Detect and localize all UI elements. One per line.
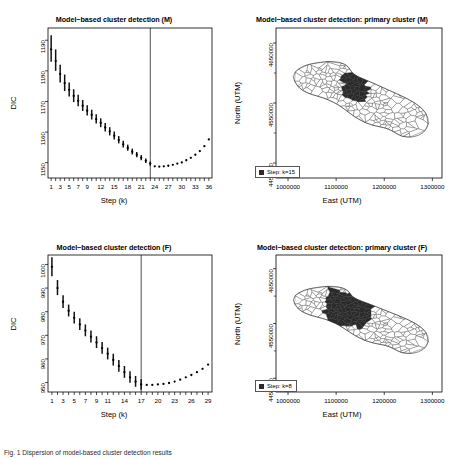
- x-tick-label: 14: [121, 397, 128, 404]
- x-tick-label: 18: [124, 183, 131, 190]
- data-point: [118, 139, 120, 141]
- panel-title-map-male: Model−based cluster detection: primary c…: [228, 15, 456, 24]
- data-point: [207, 363, 209, 365]
- x-tick-label: 1200000: [372, 183, 396, 190]
- x-tick-label: 24: [151, 183, 158, 190]
- data-point: [95, 118, 97, 120]
- data-point: [95, 341, 97, 343]
- y-axis-label: North (UTM): [233, 302, 242, 344]
- data-point: [154, 165, 156, 167]
- data-point: [194, 154, 196, 156]
- y-tick-label: 1150: [39, 163, 46, 176]
- data-point: [158, 166, 160, 168]
- x-tick-label: 1: [49, 183, 52, 190]
- y-tick-label: 990: [39, 288, 46, 298]
- legend-map-male: Step: k=15: [255, 166, 300, 178]
- data-point: [109, 130, 111, 132]
- data-point: [127, 147, 129, 149]
- y-tick-label: 1170: [39, 101, 46, 114]
- x-tick-label: 23: [171, 397, 178, 404]
- x-tick-label: 33: [192, 183, 199, 190]
- map-male: [228, 0, 456, 229]
- x-tick-label: 1300000: [420, 183, 444, 190]
- map-female: [228, 229, 456, 439]
- y-tick-label: 1180: [39, 71, 46, 84]
- panel-map-female: Model−based cluster detection: primary c…: [228, 229, 456, 439]
- data-point: [79, 323, 81, 325]
- x-axis-label: Step (k): [0, 196, 228, 205]
- data-point: [190, 157, 192, 159]
- data-point: [196, 371, 198, 373]
- data-point: [118, 365, 120, 367]
- x-tick-label: 1100000: [324, 183, 348, 190]
- x-tick-label: 1100000: [324, 397, 348, 404]
- data-point: [151, 384, 153, 386]
- data-point: [129, 376, 131, 378]
- data-point: [162, 383, 164, 385]
- data-point: [55, 60, 57, 62]
- data-point: [101, 347, 103, 349]
- x-tick-label: 20: [154, 397, 161, 404]
- panel-dic-female: Model−based cluster detection (F) 135791…: [0, 229, 228, 439]
- cluster-municipality: [350, 308, 354, 312]
- x-tick-label: 15: [111, 183, 118, 190]
- data-point: [145, 160, 147, 162]
- x-tick-label: 21: [138, 183, 145, 190]
- chart-dic-male: [0, 0, 228, 229]
- y-axis-label: DIC: [9, 317, 18, 330]
- data-point: [167, 165, 169, 167]
- y-tick-label: 980: [39, 312, 46, 322]
- data-point: [185, 159, 187, 161]
- municipality-layer: [293, 286, 428, 353]
- y-tick-label: 4550000: [267, 103, 274, 127]
- data-point: [51, 266, 53, 268]
- data-point: [86, 110, 88, 112]
- data-point: [136, 154, 138, 156]
- data-point: [199, 150, 201, 152]
- data-point: [149, 162, 151, 164]
- cluster-municipality: [350, 86, 354, 91]
- panel-title-dic-female: Model−based cluster detection (F): [0, 243, 228, 252]
- data-point: [91, 114, 93, 116]
- figure-container: Model−based cluster detection (M) 135791…: [0, 0, 456, 458]
- x-tick-label: 36: [205, 183, 212, 190]
- data-point: [62, 301, 64, 303]
- x-tick-label: 1000000: [276, 397, 300, 404]
- x-tick-label: 9: [95, 397, 98, 404]
- x-tick-label: 1300000: [420, 397, 444, 404]
- data-point: [64, 82, 66, 84]
- data-point: [123, 371, 125, 373]
- cluster-municipality: [357, 320, 366, 322]
- data-point: [140, 157, 142, 159]
- data-point: [146, 384, 148, 386]
- x-tick-label: 29: [205, 397, 212, 404]
- data-point: [73, 317, 75, 319]
- legend-swatch-icon: [259, 384, 264, 389]
- data-point: [50, 48, 52, 50]
- y-tick-label: 1000: [39, 264, 46, 278]
- x-axis-label: East (UTM): [228, 196, 456, 205]
- data-point: [134, 380, 136, 382]
- legend-map-female: Step: k=8: [255, 380, 297, 392]
- x-tick-label: 5: [72, 397, 75, 404]
- x-tick-label: 3: [58, 183, 61, 190]
- x-axis-label: Step (k): [0, 410, 228, 419]
- data-point: [59, 73, 61, 75]
- data-point: [181, 161, 183, 163]
- y-tick-label: 4550000: [267, 324, 274, 348]
- data-point: [172, 164, 174, 166]
- y-tick-label: 950: [39, 383, 46, 393]
- data-point: [168, 382, 170, 384]
- data-point: [68, 89, 70, 91]
- data-point: [140, 383, 142, 385]
- data-point: [100, 122, 102, 124]
- data-point: [77, 100, 79, 102]
- cluster-municipality: [359, 85, 366, 92]
- x-tick-label: 1: [50, 397, 53, 404]
- x-tick-label: 9: [85, 183, 88, 190]
- data-point: [201, 368, 203, 370]
- x-tick-label: 26: [188, 397, 195, 404]
- data-point: [190, 374, 192, 376]
- y-axis-label: DIC: [9, 96, 18, 109]
- x-tick-label: 27: [165, 183, 172, 190]
